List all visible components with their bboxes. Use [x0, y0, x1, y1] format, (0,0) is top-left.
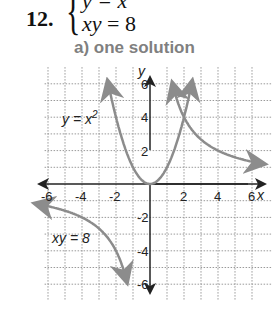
parabola-label: y = x2	[61, 109, 98, 127]
y-tick-label: -2	[137, 210, 149, 225]
hyperbola-label: xy = 8	[51, 230, 90, 246]
x-tick-label: 2	[180, 189, 187, 204]
x-tick-label: -6	[41, 189, 53, 204]
hyperbola-branch-positive	[173, 86, 261, 164]
y-tick-label: -4	[137, 244, 149, 259]
axis-label-x: x	[256, 187, 265, 203]
x-tick-label: 6	[248, 189, 255, 204]
graph: -6-4-2246642-2-4-6 x y y = x2 xy = 8	[0, 0, 279, 313]
y-tick-label: 6	[141, 77, 148, 92]
parabola-label-sup: 2	[91, 109, 98, 120]
x-tick-label: -4	[75, 189, 87, 204]
x-tick-label: 4	[214, 189, 221, 204]
y-tick-label: 2	[141, 144, 148, 159]
parabola-label-text: y = x	[61, 111, 93, 127]
y-tick-label: -6	[137, 277, 149, 292]
y-tick-label: 4	[141, 110, 148, 125]
x-tick-label: -2	[109, 189, 121, 204]
axis-label-y: y	[137, 63, 146, 79]
